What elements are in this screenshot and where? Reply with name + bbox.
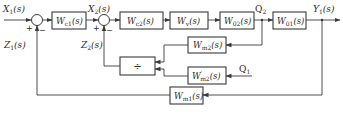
sj1-plus-sign: + bbox=[26, 24, 33, 33]
z2-label: Z2(s) bbox=[80, 40, 103, 51]
sj2-plus-sign: + bbox=[93, 24, 100, 33]
sj1-minus-sign: − bbox=[39, 26, 46, 35]
x2-label: X2(s) bbox=[87, 4, 110, 15]
block-diagram: + − Wc1(s) + − Wc2(s) Wv(s) W02(s) Q2 W0… bbox=[0, 0, 343, 130]
summing-junction-2 bbox=[99, 15, 110, 26]
q2-branch-point bbox=[261, 19, 263, 21]
y1-label: Y1(s) bbox=[313, 4, 335, 15]
wm2-to-divider-line bbox=[155, 45, 188, 62]
wm2-prime-to-divider-line bbox=[155, 69, 188, 76]
sj2-minus-sign: − bbox=[106, 26, 113, 35]
x1-label: X1(s) bbox=[2, 4, 25, 15]
z1-label: Z1(s) bbox=[3, 40, 26, 51]
q1-label: Q1 bbox=[239, 64, 250, 75]
y1-branch-point bbox=[321, 19, 323, 21]
q2-label: Q2 bbox=[255, 4, 266, 15]
summing-junction-1 bbox=[32, 15, 43, 26]
wv-label: Wv(s) bbox=[177, 16, 200, 27]
divider-symbol: ÷ bbox=[133, 61, 141, 72]
